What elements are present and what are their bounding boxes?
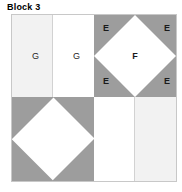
quadrant-top-left: G G bbox=[12, 15, 94, 97]
patch-plain-left bbox=[94, 97, 135, 181]
patch-g-right bbox=[53, 15, 94, 97]
quilt-block-diagram: Block 3 G G E E E E F bbox=[0, 0, 182, 192]
quadrant-bottom-left bbox=[12, 97, 94, 181]
center-diamond-patch bbox=[12, 98, 94, 181]
page-title: Block 3 bbox=[7, 2, 40, 13]
quadrant-top-right: E E E E F bbox=[94, 15, 176, 97]
square-in-square-unit-labeled bbox=[94, 15, 176, 97]
square-in-square-unit-plain bbox=[12, 97, 94, 181]
quadrant-bottom-right bbox=[94, 97, 176, 181]
patch-g-left bbox=[12, 15, 53, 97]
patch-plain-right bbox=[135, 97, 176, 181]
quilt-block-frame: G G E E E E F bbox=[11, 14, 177, 182]
center-diamond-patch-f bbox=[94, 15, 176, 97]
